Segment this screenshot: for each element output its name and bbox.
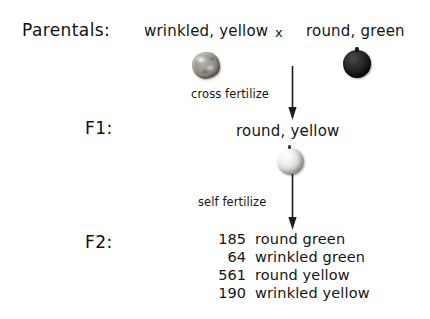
f2-result-row: 561 round yellow bbox=[196, 267, 370, 285]
pea-stem bbox=[288, 145, 291, 149]
f2-result-row: 190 wrinkled yellow bbox=[196, 285, 370, 303]
wrinkled-yellow-pea-icon bbox=[192, 52, 220, 79]
f2-results-list: 185 round green 64 wrinkled green 561 ro… bbox=[196, 231, 370, 303]
f2-count: 64 bbox=[196, 249, 246, 265]
f2-result-row: 64 wrinkled green bbox=[196, 249, 370, 267]
pea-body bbox=[343, 50, 371, 78]
f2-phenotype: wrinkled yellow bbox=[246, 285, 370, 301]
pea-body bbox=[277, 148, 304, 175]
f2-phenotype: round yellow bbox=[246, 267, 350, 283]
pea-body bbox=[192, 52, 220, 79]
parentals-generation-label: Parentals: bbox=[22, 20, 110, 40]
f2-phenotype: round green bbox=[246, 231, 345, 247]
f2-generation-label: F2: bbox=[85, 232, 113, 252]
pea-stem bbox=[355, 47, 359, 52]
f2-result-row: 185 round green bbox=[196, 231, 370, 249]
round-yellow-pea-icon bbox=[277, 148, 304, 175]
f2-count: 185 bbox=[196, 231, 246, 247]
f1-generation-label: F1: bbox=[85, 118, 113, 138]
parental-left-phenotype: wrinkled, yellow bbox=[144, 22, 268, 40]
genetics-cross-diagram: Parentals: wrinkled, yellow x round, gre… bbox=[0, 0, 430, 319]
down-arrow-icon bbox=[286, 174, 299, 230]
parental-right-phenotype: round, green bbox=[306, 22, 405, 40]
self-fertilize-label: self fertilize bbox=[198, 195, 266, 209]
round-green-pea-icon bbox=[343, 50, 371, 78]
f2-count: 190 bbox=[196, 285, 246, 301]
f1-phenotype: round, yellow bbox=[236, 122, 340, 140]
cross-fertilize-label: cross fertilize bbox=[191, 87, 269, 101]
cross-symbol: x bbox=[275, 25, 283, 40]
f2-count: 561 bbox=[196, 267, 246, 283]
f2-phenotype: wrinkled green bbox=[246, 249, 365, 265]
down-arrow-icon bbox=[286, 66, 299, 120]
